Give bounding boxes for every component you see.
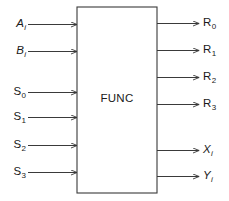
signal-base-name: B: [16, 44, 24, 56]
input-label-s1: S1: [13, 111, 26, 123]
signal-subscript: 1: [21, 116, 26, 125]
signal-subscript: 1: [211, 49, 216, 58]
signal-subscript: 0: [21, 91, 26, 100]
signal-subscript: 3: [211, 103, 216, 112]
input-label-s3: S3: [13, 166, 26, 178]
signal-base-name: S: [13, 165, 21, 177]
signal-subscript: i: [211, 175, 213, 184]
output-label-xi: Xi: [203, 144, 213, 156]
output-label-yi: Yi: [203, 170, 213, 182]
signal-base-name: S: [13, 138, 21, 150]
input-label-ai: Ai: [16, 18, 26, 30]
output-label-r0: R0: [203, 17, 216, 29]
signal-base-name: S: [13, 110, 21, 122]
signal-subscript: i: [24, 50, 26, 59]
input-label-s0: S0: [13, 86, 26, 98]
signal-subscript: i: [211, 149, 213, 158]
signal-base-name: A: [16, 17, 24, 29]
func-block-label: FUNC: [77, 92, 157, 104]
block-diagram: FUNC AiBiS0S1S2S3 R0R1R2R3XiYi: [0, 0, 229, 201]
output-label-r3: R3: [203, 98, 216, 110]
signal-subscript: 2: [21, 144, 26, 153]
input-label-s2: S2: [13, 139, 26, 151]
input-label-bi: Bi: [16, 45, 26, 57]
signal-subscript: 3: [21, 171, 26, 180]
signal-subscript: 0: [211, 22, 216, 31]
signal-base-name: Y: [203, 169, 211, 181]
signal-subscript: 2: [211, 76, 216, 85]
output-label-r2: R2: [203, 71, 216, 83]
signal-base-name: X: [203, 143, 211, 155]
signal-base-name: S: [13, 85, 21, 97]
signal-subscript: i: [24, 23, 26, 32]
output-label-r1: R1: [203, 44, 216, 56]
